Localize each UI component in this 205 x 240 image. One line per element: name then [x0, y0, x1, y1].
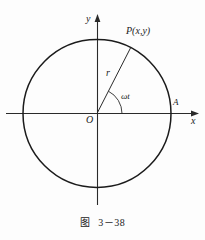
point-a-label: A [173, 98, 179, 107]
point-p-label: P(x,y) [126, 26, 150, 36]
angle-arc [108, 91, 122, 113]
circle-diagram [0, 0, 205, 240]
figure-3-38: y x O A r ωt P(x,y) 图3－38 [0, 0, 205, 240]
figure-caption: 图3－38 [0, 214, 205, 229]
radius-label: r [106, 68, 110, 78]
radius-line [97, 47, 131, 114]
figure-caption-number: 3－38 [98, 217, 125, 228]
angle-label: ωt [121, 92, 130, 101]
y-axis-label: y [86, 14, 90, 24]
figure-caption-prefix: 图 [80, 217, 91, 228]
y-axis-arrowhead [95, 14, 101, 22]
x-axis-label: x [191, 116, 195, 126]
origin-label: O [86, 115, 93, 125]
